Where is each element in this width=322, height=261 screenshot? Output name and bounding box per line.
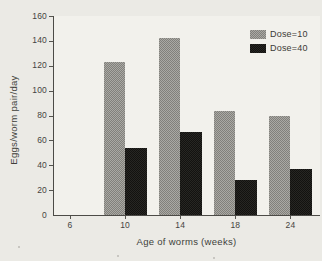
x-tick-label-18: 18 — [225, 221, 245, 230]
bar-dose40-age14 — [180, 132, 202, 215]
bar-dose40-age10 — [125, 148, 147, 215]
x-axis-title: Age of worms (weeks) — [53, 236, 320, 247]
legend-swatch-dose40-icon — [250, 44, 266, 53]
x-tick — [125, 216, 126, 219]
y-tick — [49, 66, 53, 67]
legend-label-dose40: Dose=40 — [270, 43, 308, 53]
y-tick — [49, 165, 53, 166]
bar-dose40-age18 — [235, 180, 257, 215]
x-tick-label-10: 10 — [115, 221, 135, 230]
x-axis-line — [53, 215, 320, 216]
x-tick-label-24: 24 — [280, 221, 300, 230]
x-tick — [290, 216, 291, 219]
x-tick — [180, 216, 181, 219]
y-tick-label-100: 100 — [23, 86, 47, 95]
y-tick — [49, 16, 53, 17]
x-tick — [70, 216, 71, 219]
legend-label-dose10: Dose=10 — [270, 29, 308, 39]
y-tick-label-120: 120 — [23, 61, 47, 70]
y-axis-line — [53, 16, 54, 215]
scan-speckle — [213, 257, 215, 259]
y-tick-label-40: 40 — [23, 161, 47, 170]
y-tick — [49, 190, 53, 191]
scan-speckle — [18, 246, 20, 248]
legend-item-dose40: Dose=40 — [250, 41, 308, 55]
y-axis-title: Eggs/worm pair/day — [8, 49, 20, 191]
y-tick — [49, 41, 53, 42]
y-tick-label-20: 20 — [23, 186, 47, 195]
y-tick — [49, 140, 53, 141]
legend: Dose=10 Dose=40 — [250, 27, 308, 55]
x-tick-label-6: 6 — [60, 221, 80, 230]
bar-chart: Eggs/worm pair/day Age of worms (weeks) … — [0, 0, 322, 261]
y-tick-label-60: 60 — [23, 136, 47, 145]
y-tick-label-160: 160 — [23, 12, 47, 21]
bar-dose10-age24 — [269, 116, 291, 216]
y-tick — [49, 116, 53, 117]
x-tick-label-14: 14 — [170, 221, 190, 230]
y-tick-label-80: 80 — [23, 111, 47, 120]
x-tick — [235, 216, 236, 219]
bar-dose10-age10 — [104, 62, 126, 215]
legend-swatch-dose10-icon — [250, 30, 266, 39]
y-tick — [49, 91, 53, 92]
y-tick-label-140: 140 — [23, 36, 47, 45]
bar-dose10-age14 — [159, 38, 181, 215]
scan-speckle — [117, 255, 119, 257]
legend-item-dose10: Dose=10 — [250, 27, 308, 41]
y-tick-label-0: 0 — [23, 211, 47, 220]
bar-dose40-age24 — [290, 169, 312, 215]
bar-dose10-age18 — [214, 111, 236, 215]
